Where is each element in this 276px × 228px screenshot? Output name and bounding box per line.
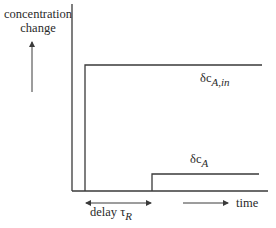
- y-axis-label-line2: change: [20, 21, 56, 35]
- input-step-label: δcA,in: [200, 71, 230, 88]
- delay-label: delay τR: [90, 205, 132, 222]
- y-axis-label-line1: concentration: [4, 7, 73, 21]
- output-step-label: δcA: [190, 152, 208, 169]
- step-response-diagram: concentration change δcA,in δcA delay τR…: [0, 0, 276, 228]
- input-step-curve: [85, 65, 262, 191]
- output-step-curve: [152, 174, 259, 191]
- x-axis-label: time: [236, 196, 259, 210]
